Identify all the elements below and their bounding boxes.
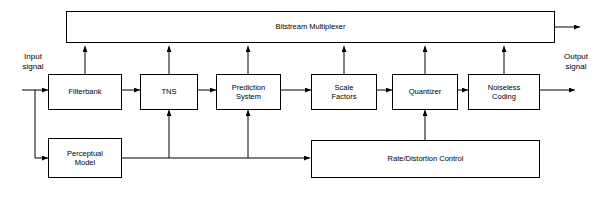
quantizer-block: Quantizer bbox=[392, 74, 458, 110]
scale-factors-label: Scale Factors bbox=[331, 83, 356, 102]
tns-block: TNS bbox=[140, 74, 198, 110]
prediction-system-label: Prediction System bbox=[232, 83, 265, 102]
perceptual-model-label: Perceptual Model bbox=[67, 149, 103, 168]
input-signal-label: Input signal bbox=[8, 52, 58, 71]
filterbank-block: Filterbank bbox=[48, 74, 122, 110]
noiseless-coding-block: Noiseless Coding bbox=[468, 74, 540, 110]
scale-factors-block: Scale Factors bbox=[311, 74, 377, 110]
bitstream-multiplexer-block: Bitstream Multiplexer bbox=[66, 11, 555, 43]
filterbank-label: Filterbank bbox=[69, 87, 102, 96]
rate-distortion-control-label: Rate/Distortion Control bbox=[388, 154, 464, 163]
bitstream-multiplexer-label: Bitstream Multiplexer bbox=[275, 22, 345, 31]
prediction-system-block: Prediction System bbox=[216, 74, 281, 110]
output-signal-label: Output signal bbox=[551, 52, 601, 71]
quantizer-label: Quantizer bbox=[409, 87, 442, 96]
perceptual-model-block: Perceptual Model bbox=[48, 138, 122, 178]
rate-distortion-control-block: Rate/Distortion Control bbox=[311, 140, 540, 178]
noiseless-coding-label: Noiseless Coding bbox=[488, 83, 521, 102]
diagram-canvas: Bitstream Multiplexer Input signal Outpu… bbox=[0, 0, 601, 199]
tns-label: TNS bbox=[162, 87, 177, 96]
